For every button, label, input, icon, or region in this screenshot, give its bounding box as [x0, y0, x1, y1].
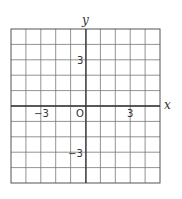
coordinate-plane: y x −3 O 3 3 −3 [0, 0, 182, 199]
tick-label-y-3: 3 [77, 55, 83, 66]
origin-label: O [76, 108, 84, 119]
tick-label-y-neg3: −3 [68, 148, 83, 159]
y-axis-label: y [81, 13, 89, 27]
tick-label-x-neg3: −3 [34, 108, 49, 119]
tick-label-x-3: 3 [127, 108, 133, 119]
x-axis-label: x [164, 98, 171, 112]
